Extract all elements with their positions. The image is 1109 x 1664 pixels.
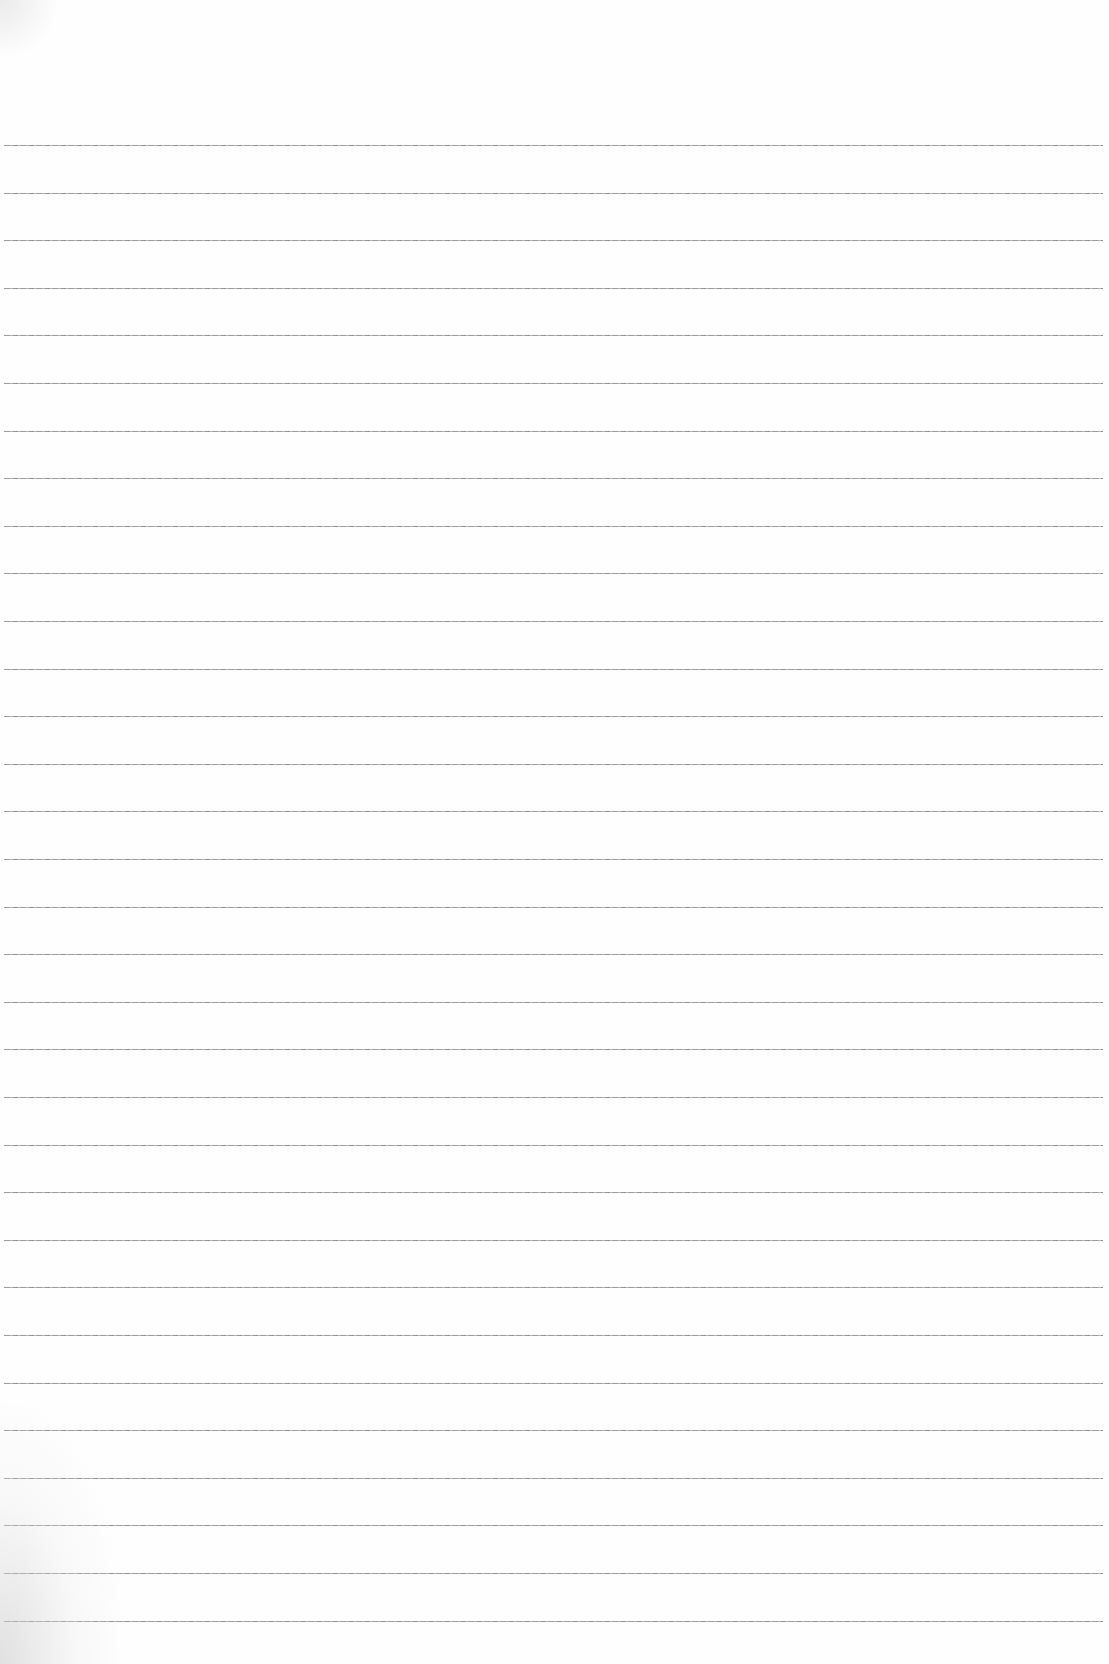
ruled-line [4,573,1103,574]
ruled-line [4,1049,1103,1050]
ruled-line [4,526,1103,527]
ruled-line [4,1573,1103,1574]
ruled-line [4,859,1103,860]
ruled-line [4,1335,1103,1336]
ruled-line [4,1240,1103,1241]
ruled-line [4,1097,1103,1098]
ruled-line [4,1192,1103,1193]
ruled-line [4,1478,1103,1479]
ruled-line [4,145,1103,146]
ruled-line [4,716,1103,717]
ruled-line [4,288,1103,289]
lined-paper-page [0,0,1109,1664]
ruled-line [4,1002,1103,1003]
ruled-line [4,1383,1103,1384]
ruled-line [4,1430,1103,1431]
ruled-line [4,621,1103,622]
ruled-line [4,1621,1103,1622]
ruled-line [4,193,1103,194]
scan-shadow-bottom [0,1404,120,1664]
ruled-line [4,907,1103,908]
ruled-line [4,954,1103,955]
ruled-line [4,1287,1103,1288]
ruled-line [4,335,1103,336]
ruled-line [4,669,1103,670]
ruled-line [4,1145,1103,1146]
ruled-line [4,383,1103,384]
ruled-line [4,431,1103,432]
ruled-line [4,240,1103,241]
scan-shadow-top [0,0,60,60]
ruled-line [4,478,1103,479]
ruled-line [4,811,1103,812]
ruled-line [4,764,1103,765]
ruled-line [4,1525,1103,1526]
